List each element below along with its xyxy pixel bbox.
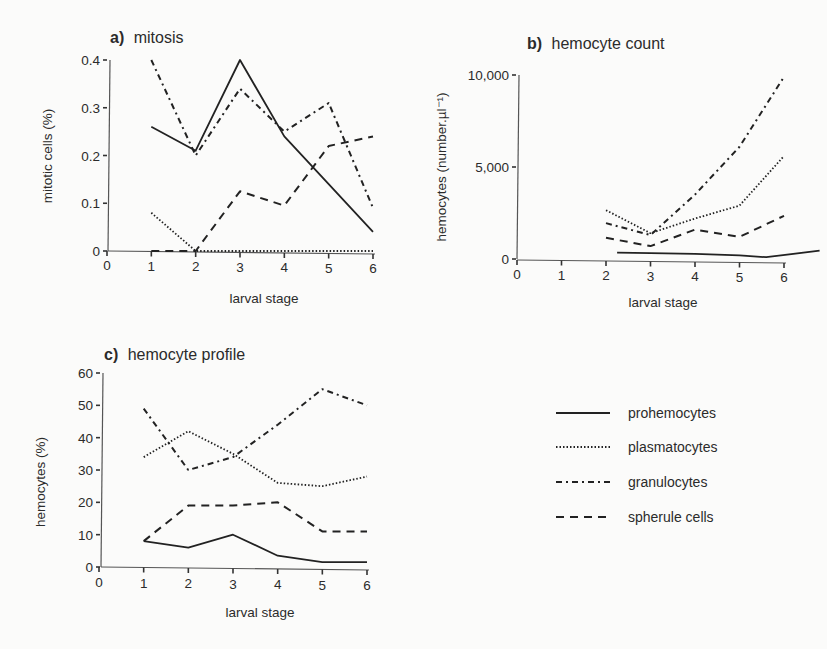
series-plasmatocytes [144, 431, 367, 486]
y-axis-line [517, 75, 519, 259]
chart-b-ylabel: hemocytes (number.µl⁻¹) [434, 92, 449, 241]
x-tick-label: 4 [691, 269, 699, 284]
x-axis-line [517, 260, 786, 263]
y-tick-label: 0 [85, 560, 93, 575]
x-tick-label: 2 [185, 576, 193, 591]
chart-c-ylabel: hemocytes (%) [33, 437, 48, 527]
series-prohemocytes [144, 535, 367, 562]
series-granulocytes [151, 60, 373, 208]
x-tick-label: 5 [736, 270, 744, 285]
y-tick-label: 5,000 [475, 160, 509, 175]
series-spherule-cells [151, 136, 373, 251]
y-tick-label: 10,000 [468, 68, 509, 83]
x-tick-label: 1 [558, 268, 566, 283]
chart-mitosis: a) mitosis mitotic cells (%) larval stag… [40, 29, 377, 306]
chart-b-title: b) hemocyte count [527, 35, 665, 52]
x-tick-label: 3 [236, 260, 244, 275]
y-tick-label: 30 [78, 463, 93, 478]
chart-hemocyte-profile: c) hemocyte profile hemocytes (%) larval… [33, 346, 371, 620]
y-tick-label: 60 [78, 366, 93, 381]
x-tick-label: 6 [363, 578, 371, 593]
x-tick-label: 0 [103, 258, 111, 273]
chart-c-xlabel: larval stage [225, 605, 294, 620]
chart-a-ylabel: mitotic cells (%) [40, 109, 55, 204]
x-tick-label: 4 [274, 577, 282, 592]
legend-label: spherule cells [628, 509, 714, 525]
series-spherule-cells [144, 502, 367, 541]
legend-label: prohemocytes [628, 405, 716, 421]
y-tick-label: 20 [78, 495, 93, 510]
legend-label: plasmatocytes [628, 439, 717, 455]
legend-label: granulocytes [628, 474, 707, 490]
chart-a-title-text: mitosis [134, 29, 184, 46]
chart-a-xlabel: larval stage [229, 291, 298, 306]
series-granulocytes [606, 77, 784, 235]
chart-a-axes: 00.10.20.30.40123456 [81, 53, 377, 276]
x-tick-label: 0 [95, 575, 103, 590]
chart-b-panel-label: b) [527, 35, 542, 52]
chart-b-title-text: hemocyte count [552, 35, 666, 52]
x-tick-label: 3 [647, 269, 655, 284]
x-tick-label: 1 [140, 576, 148, 591]
x-axis-line [108, 251, 375, 254]
chart-b-xlabel: larval stage [628, 295, 697, 310]
x-tick-label: 5 [319, 578, 327, 593]
series-prohemocytes [617, 251, 820, 258]
x-tick-label: 6 [780, 270, 788, 285]
legend-item-plasmatocytes: plasmatocytes [556, 439, 717, 455]
chart-c-panel-label: c) [104, 346, 118, 363]
y-axis-line [108, 60, 110, 251]
series-granulocytes [144, 389, 367, 470]
legend-item-spherule-cells: spherule cells [556, 509, 714, 525]
chart-c-title: c) hemocyte profile [104, 346, 245, 363]
chart-b-series [606, 77, 820, 257]
y-tick-label: 0.3 [81, 101, 100, 116]
chart-a-panel-label: a) [110, 29, 124, 46]
x-tick-label: 2 [602, 268, 610, 283]
y-tick-label: 50 [78, 398, 93, 413]
chart-a-title: a) mitosis [110, 29, 183, 46]
legend-item-granulocytes: granulocytes [556, 474, 707, 490]
chart-hemocyte-count: b) hemocyte count hemocytes (number.µl⁻¹… [434, 35, 820, 310]
legend-item-prohemocytes: prohemocytes [556, 405, 716, 421]
chart-c-axes: 01020304050600123456 [78, 366, 371, 593]
y-tick-label: 0 [501, 252, 509, 267]
x-tick-label: 3 [229, 577, 237, 592]
x-axis-line [101, 567, 369, 570]
legend: prohemocytes plasmatocytes granulocytes … [556, 405, 717, 525]
y-tick-label: 40 [78, 431, 93, 446]
y-tick-label: 0.2 [81, 149, 100, 164]
series-plasmatocytes [151, 213, 373, 251]
x-tick-label: 2 [192, 259, 200, 274]
y-tick-label: 10 [78, 528, 93, 543]
chart-a-series [151, 60, 373, 251]
x-tick-label: 1 [148, 259, 156, 274]
y-tick-label: 0 [92, 244, 100, 259]
y-tick-label: 0.4 [81, 53, 100, 68]
y-tick-label: 0.1 [81, 196, 100, 211]
x-tick-label: 5 [325, 261, 333, 276]
figure: a) mitosis mitotic cells (%) larval stag… [0, 0, 827, 649]
x-tick-label: 6 [369, 261, 377, 276]
x-tick-label: 4 [281, 260, 289, 275]
x-tick-label: 0 [513, 267, 521, 282]
y-axis-line [101, 373, 103, 567]
chart-c-series [144, 389, 367, 562]
series-prohemocytes [151, 60, 373, 232]
chart-c-title-text: hemocyte profile [128, 346, 245, 363]
